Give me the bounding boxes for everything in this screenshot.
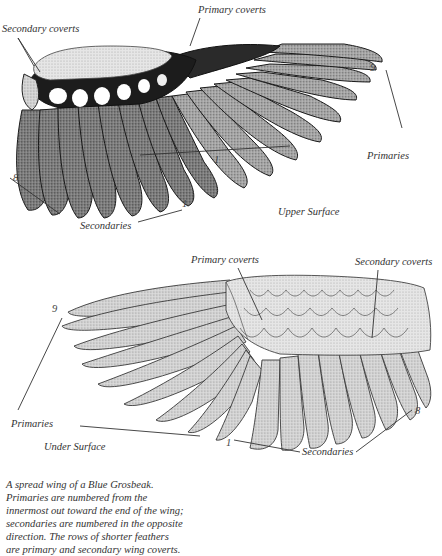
under-primaries-label: Primaries bbox=[11, 418, 53, 429]
upper-wing bbox=[17, 44, 383, 218]
caption-line: Primaries are numbered from the bbox=[6, 491, 306, 504]
caption-line: A spread wing of a Blue Grosbeak. bbox=[6, 478, 306, 491]
upper-secondary-1-number: 1 bbox=[182, 198, 187, 209]
under-primary-9-number: 9 bbox=[52, 303, 57, 314]
caption-line: are primary and secondary wing coverts. bbox=[6, 543, 306, 556]
under-secondary-8-number: 8 bbox=[415, 405, 420, 416]
upper-secondary-8-number: 8 bbox=[13, 172, 18, 183]
figure-caption: A spread wing of a Blue Grosbeak. Primar… bbox=[6, 478, 306, 556]
upper-surface-label: Upper Surface bbox=[278, 206, 340, 217]
under-surface-label: Under Surface bbox=[44, 441, 106, 452]
under-coverts bbox=[226, 275, 431, 355]
upper-primary-9-number: 9 bbox=[370, 62, 375, 73]
under-secondaries-label: Secondaries bbox=[302, 446, 353, 457]
under-primary-coverts-label: Primary coverts bbox=[191, 254, 259, 265]
upper-secondaries-label: Secondaries bbox=[80, 220, 131, 231]
upper-primaries-label: Primaries bbox=[367, 150, 409, 161]
caption-line: secondaries are numbered in the opposite bbox=[6, 517, 306, 530]
under-secondary-coverts-label: Secondary coverts bbox=[355, 256, 432, 267]
upper-primary-1-number: 1 bbox=[214, 154, 219, 165]
under-secondaries bbox=[250, 340, 431, 450]
under-secondary-1-number: 1 bbox=[226, 437, 231, 448]
upper-primary-coverts-label: Primary coverts bbox=[198, 4, 266, 15]
caption-line: direction. The rows of shorter feathers bbox=[6, 530, 306, 543]
upper-secondary-coverts-label: Secondary coverts bbox=[2, 23, 79, 34]
caption-line: innermost out toward the end of the wing… bbox=[6, 504, 306, 517]
